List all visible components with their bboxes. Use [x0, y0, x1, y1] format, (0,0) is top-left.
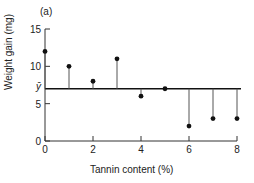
- data-point: [163, 86, 168, 91]
- data-point: [91, 79, 96, 84]
- data-point: [43, 49, 48, 54]
- x-tick-label: 2: [90, 144, 96, 155]
- mean-line-label: ȳ: [35, 81, 42, 92]
- data-point: [139, 94, 144, 99]
- data-point: [67, 64, 72, 69]
- data-point: [235, 116, 240, 121]
- y-tick-label: 10: [30, 61, 42, 72]
- scatter-plot: 05101502468ȳ: [0, 0, 254, 183]
- data-point: [115, 56, 120, 61]
- x-tick-label: 8: [234, 144, 240, 155]
- x-tick-label: 0: [42, 144, 48, 155]
- x-tick-label: 4: [138, 144, 144, 155]
- y-tick-label: 5: [35, 99, 41, 110]
- data-point: [187, 124, 192, 129]
- y-tick-label: 15: [30, 24, 42, 35]
- x-tick-label: 6: [186, 144, 192, 155]
- data-point: [211, 116, 216, 121]
- y-tick-label: 0: [35, 136, 41, 147]
